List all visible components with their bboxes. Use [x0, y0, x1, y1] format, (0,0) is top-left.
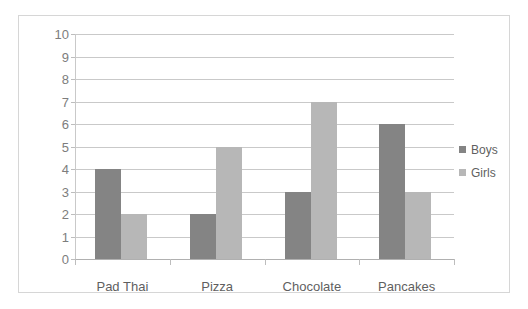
- bar-boys-chocolate[interactable]: [285, 192, 311, 260]
- plot-area: [75, 34, 454, 259]
- bar-girls-pizza[interactable]: [216, 147, 242, 260]
- category-separator: [265, 259, 266, 265]
- y-tick-label: 1: [35, 230, 69, 243]
- legend-label-girls: Girls: [471, 167, 496, 179]
- y-tick-label: 9: [35, 50, 69, 63]
- legend-swatch-icon-girls: [459, 169, 466, 176]
- bar-group-pancakes: [359, 34, 454, 259]
- bar-girls-chocolate[interactable]: [311, 102, 337, 260]
- bar-girls-pancakes[interactable]: [405, 192, 431, 260]
- bar-boys-pad-thai[interactable]: [95, 169, 121, 259]
- category-separator: [170, 259, 171, 265]
- y-tick-label: 8: [35, 73, 69, 86]
- bar-group-pad-thai: [75, 34, 170, 259]
- bar-girls-pad-thai[interactable]: [121, 214, 147, 259]
- bar-group-pizza: [170, 34, 265, 259]
- bar-group-chocolate: [265, 34, 360, 259]
- legend-item-girls[interactable]: Girls: [459, 161, 519, 184]
- y-tick-label: 6: [35, 118, 69, 131]
- legend-item-boys[interactable]: Boys: [459, 138, 519, 161]
- y-tick-label: 4: [35, 163, 69, 176]
- y-tick-label: 10: [35, 28, 69, 41]
- legend-label-boys: Boys: [471, 144, 498, 156]
- y-tick-label: 2: [35, 208, 69, 221]
- category-separator: [359, 259, 360, 265]
- bar-boys-pizza[interactable]: [190, 214, 216, 259]
- category-label-pizza: Pizza: [170, 280, 265, 293]
- category-axis-labels: Pad Thai Pizza Chocolate Pancakes: [75, 280, 454, 302]
- category-label-chocolate: Chocolate: [265, 280, 360, 293]
- bar-boys-pancakes[interactable]: [379, 124, 405, 259]
- category-separator: [454, 259, 455, 265]
- y-tick-label: 5: [35, 140, 69, 153]
- category-label-pad-thai: Pad Thai: [75, 280, 170, 293]
- chart-legend: Boys Girls: [459, 138, 519, 184]
- category-separator: [75, 259, 76, 265]
- y-tick-label: 0: [35, 253, 69, 266]
- chart-frame: 10 9 8 7 6 5 4 3 2 1 0: [18, 15, 510, 293]
- y-tick-label: 3: [35, 185, 69, 198]
- category-label-pancakes: Pancakes: [359, 280, 454, 293]
- y-tick-label: 7: [35, 95, 69, 108]
- legend-swatch-icon-boys: [459, 146, 466, 153]
- y-axis-tick-labels: 10 9 8 7 6 5 4 3 2 1 0: [19, 34, 69, 259]
